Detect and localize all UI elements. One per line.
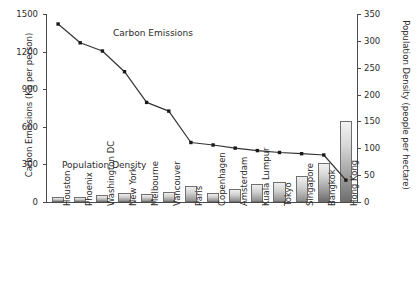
line-path	[58, 24, 346, 180]
x-tick-label: Phoenix	[84, 172, 94, 206]
carbon-emissions-label: Carbon Emissions	[113, 28, 193, 38]
line-marker	[101, 49, 104, 52]
line-marker	[300, 152, 303, 155]
x-tick-label: Houston	[62, 171, 72, 206]
x-tick-label: Kuala Lumpur	[261, 147, 271, 206]
line-marker	[123, 70, 126, 73]
x-tick-label: Vancouver	[172, 161, 182, 206]
line-marker	[56, 22, 59, 25]
line-marker	[189, 141, 192, 144]
line-marker	[79, 41, 82, 44]
line-marker	[145, 101, 148, 104]
line-marker	[322, 153, 325, 156]
line-marker	[344, 178, 347, 181]
chart-canvas: Carbon Emissions (Kg per person) Populat…	[0, 0, 417, 292]
line-marker	[256, 149, 259, 152]
x-tick-label: Bangkok	[327, 169, 337, 206]
x-tick-label: Copenhagen	[217, 152, 227, 206]
x-tick-label: Singapore	[305, 163, 315, 206]
x-tick-label: Washington DC	[106, 141, 116, 206]
x-tick-label: Tokyo	[283, 182, 293, 206]
x-tick-label: Paris	[194, 186, 204, 206]
x-tick-label: Amsterdam	[239, 157, 249, 206]
x-tick-label: New York	[128, 167, 138, 206]
carbon-emissions-line	[0, 0, 417, 292]
x-tick-label: Melbourne	[150, 161, 160, 206]
line-marker	[211, 143, 214, 146]
line-marker	[234, 146, 237, 149]
line-marker	[167, 109, 170, 112]
x-tick-label: Hong Kong	[349, 160, 359, 206]
line-marker	[278, 151, 281, 154]
line-markers	[56, 22, 347, 181]
